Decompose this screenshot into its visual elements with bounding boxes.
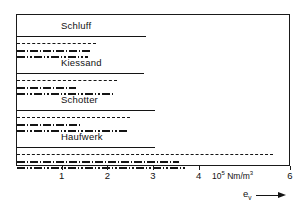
group-label-kiessand: Kiessand [61,58,102,68]
group-label-haufwerk: Haufwerk [61,132,103,142]
range-bar-kiessand-dashed [17,80,117,81]
x-tick-label-2: 2 [105,171,110,181]
x-tick-label-4: 4 [196,171,201,181]
range-bar-schotter-dashed [17,117,130,118]
range-bar-schluff-dashdot [17,49,91,52]
range-bar-schluff-dashed [17,43,96,44]
range-bar-schluff-solid [17,36,146,37]
x-tick-label-3: 3 [150,171,155,181]
x-axis-variable-group: ev [243,189,286,201]
x-axis-variable-label: ev [243,189,252,201]
x-axis-arrow-icon [256,192,286,199]
range-bar-haufwerk-solid [17,147,155,148]
range-bar-schotter-solid [17,110,155,111]
range-bar-haufwerk-dashed [17,154,273,155]
x-tick-label-6: 6 [287,171,292,181]
range-bar-kiessand-dashdot [17,86,76,89]
range-bar-kiessand-solid [17,73,144,74]
plot-frame: SchluffKiessandSchotterHaufwerk [16,14,290,166]
range-bar-haufwerk-dashdot [17,160,179,163]
x-tick-label-1: 1 [59,171,64,181]
chart-screenshot: SchluffKiessandSchotterHaufwerk 12346 10… [0,0,308,215]
range-bar-schotter-dashdot [17,123,80,126]
x-axis-unit-label: 105 Nm/m3 [212,170,253,180]
group-label-schotter: Schotter [61,95,98,105]
group-label-schluff: Schluff [61,21,91,31]
range-bar-haufwerk-dashdotdot [17,166,187,169]
plot-area: SchluffKiessandSchotterHaufwerk [17,15,289,165]
